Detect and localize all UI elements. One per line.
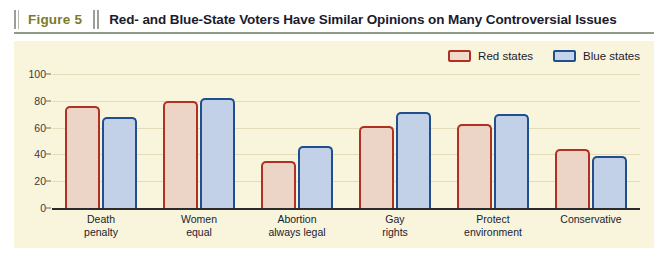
figure-container: Figure 5 Red- and Blue-State Voters Have… bbox=[0, 0, 668, 262]
y-tick-mark bbox=[46, 181, 51, 182]
category-label-line: Women bbox=[151, 213, 247, 226]
y-tick-label: 60 bbox=[34, 122, 46, 134]
category-label: Protectenvironment bbox=[445, 213, 541, 239]
figure-header: Figure 5 Red- and Blue-State Voters Have… bbox=[14, 6, 654, 34]
bar-group bbox=[457, 74, 529, 208]
bar[interactable] bbox=[298, 146, 333, 208]
category-label-line: Death bbox=[53, 213, 149, 226]
y-tick-label: 0 bbox=[40, 202, 46, 214]
category-label-line: penalty bbox=[53, 226, 149, 239]
bar[interactable] bbox=[163, 101, 198, 208]
y-tick-mark bbox=[46, 100, 51, 101]
y-tick-label: 40 bbox=[34, 148, 46, 160]
bars-layer bbox=[52, 74, 640, 208]
category-label: Womenequal bbox=[151, 213, 247, 239]
y-tick-label: 80 bbox=[34, 95, 46, 107]
legend-item-red-states: Red states bbox=[448, 50, 533, 62]
bar[interactable] bbox=[457, 124, 492, 208]
bar[interactable] bbox=[555, 149, 590, 208]
category-label-line: Gay bbox=[347, 213, 443, 226]
y-tick-label: 100 bbox=[28, 68, 46, 80]
x-axis-category-labels: DeathpenaltyWomenequalAbortionalways leg… bbox=[52, 213, 640, 239]
legend-item-blue-states: Blue states bbox=[553, 50, 640, 62]
bar-group bbox=[65, 74, 137, 208]
figure-title: Red- and Blue-State Voters Have Similar … bbox=[99, 12, 616, 27]
category-label-line: Protect bbox=[445, 213, 541, 226]
legend-swatch-blue-icon bbox=[553, 50, 576, 62]
category-label: Deathpenalty bbox=[53, 213, 149, 239]
category-label-line: Abortion bbox=[249, 213, 345, 226]
figure-number-label: Figure 5 bbox=[19, 12, 93, 27]
category-label-line: environment bbox=[445, 226, 541, 239]
category-label: Gayrights bbox=[347, 213, 443, 239]
bar[interactable] bbox=[200, 98, 235, 208]
y-tick-mark bbox=[46, 208, 51, 209]
bar[interactable] bbox=[592, 156, 627, 208]
plot-area: 020406080100 bbox=[52, 74, 640, 208]
legend-swatch-red-icon bbox=[448, 50, 471, 62]
legend-label-blue-states: Blue states bbox=[583, 50, 640, 62]
category-label: Abortionalways legal bbox=[249, 213, 345, 239]
category-label-line: equal bbox=[151, 226, 247, 239]
bar[interactable] bbox=[396, 112, 431, 208]
bar-group bbox=[359, 74, 431, 208]
bar[interactable] bbox=[494, 114, 529, 208]
chart-legend: Red states Blue states bbox=[448, 50, 640, 62]
bar[interactable] bbox=[359, 126, 394, 208]
y-tick-mark bbox=[46, 154, 51, 155]
bar[interactable] bbox=[65, 106, 100, 208]
category-label-line: Conservative bbox=[543, 213, 639, 226]
y-tick-mark bbox=[46, 74, 51, 75]
category-label-line: rights bbox=[347, 226, 443, 239]
header-rule-left bbox=[14, 10, 16, 29]
x-axis-line bbox=[52, 208, 640, 210]
y-tick-label: 20 bbox=[34, 175, 46, 187]
bar[interactable] bbox=[261, 161, 296, 208]
chart-panel: Red states Blue states 020406080100 Deat… bbox=[14, 41, 654, 248]
bar-group bbox=[163, 74, 235, 208]
y-tick-mark bbox=[46, 127, 51, 128]
bar-group bbox=[555, 74, 627, 208]
category-label-line: always legal bbox=[249, 226, 345, 239]
legend-label-red-states: Red states bbox=[478, 50, 533, 62]
category-label: Conservative bbox=[543, 213, 639, 239]
bar-group bbox=[261, 74, 333, 208]
bar[interactable] bbox=[102, 117, 137, 208]
header-rule-mid bbox=[93, 10, 95, 29]
